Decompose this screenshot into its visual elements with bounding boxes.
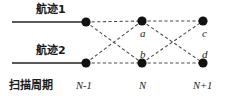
node-label-d: d	[202, 49, 208, 60]
node-n-minus-1-bottom	[81, 58, 90, 67]
node-n-top	[137, 16, 146, 25]
node-label-b: b	[140, 49, 146, 60]
track-label-1: 航迹1	[36, 4, 66, 15]
axis-caption-scan-period: 扫描周期	[9, 80, 53, 91]
axis-tick-n: N	[139, 81, 146, 92]
node-n-minus-1-top	[81, 17, 90, 26]
axis-tick-n-plus-1: N+1	[193, 81, 212, 92]
node-label-c: c	[202, 28, 207, 39]
dashed-edge-n1top-ntop	[86, 21, 142, 22]
track-association-diagram: 航迹1 航迹2 a b c d 扫描周期 N-1 N N+1	[0, 0, 226, 100]
track-label-2: 航迹2	[36, 45, 66, 56]
axis-tick-n-minus-1: N-1	[76, 81, 92, 92]
node-label-a: a	[140, 28, 146, 39]
node-n-plus-1-top	[198, 16, 207, 25]
